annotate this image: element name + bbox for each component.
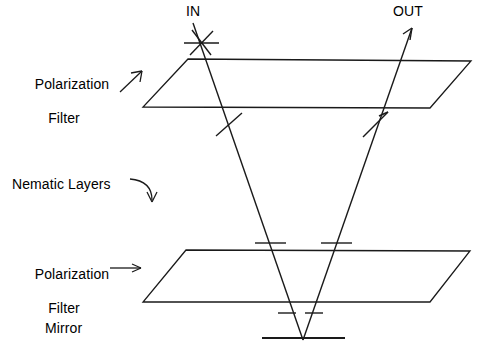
nematic-pointer-head-b: [152, 192, 157, 202]
nematic-layers-label: Nematic Layers: [12, 176, 111, 193]
out-label: OUT: [393, 3, 423, 20]
top-polarization-filter-label: Polarization Filter: [14, 59, 114, 161]
in-cross-mark: [184, 30, 219, 55]
incoming-ray: [193, 23, 303, 340]
top-filter-pointer-shaft: [120, 71, 142, 92]
top-polarization-filter-label-line2: Filter: [14, 110, 114, 127]
in-label: IN: [186, 3, 200, 20]
in-slash-mark: [216, 113, 242, 136]
bottom-filter-outline: [143, 250, 470, 302]
outgoing-ray-line: [303, 28, 412, 340]
top-filter-pointer-arrow: [120, 71, 142, 92]
top-polarization-filter-shape: [143, 59, 471, 108]
bottom-filter-pointer-arrow: [110, 264, 141, 272]
top-filter-outline: [143, 59, 471, 108]
outgoing-ray: [303, 28, 412, 340]
lcd-light-path-diagram: IN OUT Polarization Filter Nematic Layer…: [0, 0, 479, 350]
bottom-polarization-filter-shape: [143, 250, 470, 302]
in-slash-mark-line: [216, 113, 242, 136]
incoming-ray-line: [193, 23, 303, 340]
top-polarization-filter-label-line1: Polarization: [35, 76, 109, 92]
mirror-label: Mirror: [45, 320, 82, 337]
bottom-polarization-filter-label-line1: Polarization: [35, 266, 109, 282]
bottom-polarization-filter-label-line2: Filter: [14, 300, 114, 317]
nematic-pointer-arrow: [130, 179, 157, 202]
